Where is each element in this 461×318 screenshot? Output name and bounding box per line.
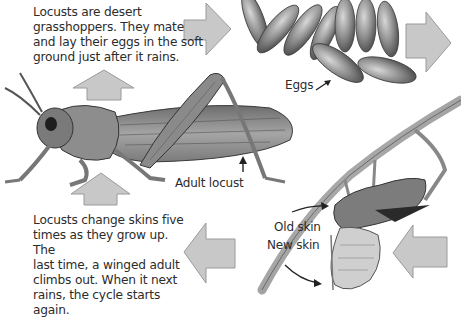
caption-top-line: ground just after it rains. [33, 50, 203, 65]
arrow-up-icon [73, 70, 134, 100]
new-skin-label: New skin [267, 238, 320, 252]
eggs-label: Eggs [285, 78, 313, 92]
adult-locust-illustration [5, 73, 293, 185]
arrow-up-icon [71, 173, 130, 205]
caption-bottom-line: times as they grow up. The [33, 228, 193, 258]
arrow-left-icon [393, 225, 447, 278]
caption-top-line: and lay their eggs in the soft [33, 35, 203, 50]
new-skin-pointer-arrow [285, 265, 322, 287]
caption-bottom-line: Locusts change skins five [33, 213, 193, 228]
arrow-right-icon [406, 12, 451, 72]
eggs-pointer-arrow [316, 80, 331, 90]
caption-top: Locusts are desert grasshoppers. They ma… [33, 5, 203, 65]
caption-bottom-line: rains, the cycle starts again. [33, 288, 193, 318]
caption-bottom-line: climbs out. When it next [33, 273, 193, 288]
old-skin-label: Old skin [274, 220, 321, 234]
caption-bottom-line: last time, a winged adult [33, 258, 193, 273]
caption-top-line: Locusts are desert [33, 5, 203, 20]
caption-bottom: Locusts change skins five times as they … [33, 213, 193, 318]
adult-locust-label: Adult locust [175, 176, 244, 190]
eggs-illustration [236, 0, 419, 89]
caption-top-line: grasshoppers. They mate [33, 20, 203, 35]
adult-pointer-arrow [239, 156, 247, 172]
